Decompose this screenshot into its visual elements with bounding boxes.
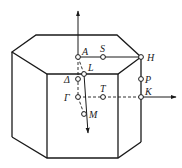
point-T xyxy=(101,95,106,100)
point-L xyxy=(82,72,87,77)
label-L: L xyxy=(87,62,94,73)
hexagonal-brillouin-zone-diagram: A S H L Δ P Γ T K M xyxy=(0,0,182,168)
point-K xyxy=(139,95,144,100)
label-Gamma: Γ xyxy=(63,92,70,103)
point-H xyxy=(139,55,144,60)
label-A: A xyxy=(81,46,89,57)
bottom-visible-edges xyxy=(12,137,141,158)
point-M xyxy=(82,112,87,117)
point-P xyxy=(139,77,144,82)
point-Delta xyxy=(76,77,81,82)
label-Delta: Δ xyxy=(63,74,70,85)
label-T: T xyxy=(100,83,107,94)
label-K: K xyxy=(144,86,153,97)
axis-through-L-M xyxy=(84,74,88,133)
label-P: P xyxy=(144,74,151,85)
point-A xyxy=(76,55,81,60)
top-hexagon-face xyxy=(12,35,141,74)
point-Gamma xyxy=(76,95,81,100)
label-H: H xyxy=(146,52,155,63)
point-S xyxy=(101,55,106,60)
label-S: S xyxy=(100,43,105,54)
label-M: M xyxy=(88,109,98,120)
